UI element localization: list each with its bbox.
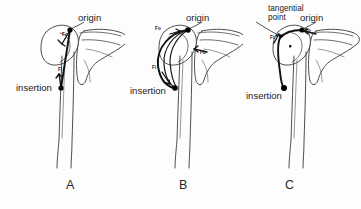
- panel-c-drawing: [232, 0, 361, 175]
- tangential-point-line1: tangential: [268, 4, 304, 13]
- insertion-label-b: insertion: [130, 86, 166, 96]
- obstacle-center-marker: [289, 45, 291, 47]
- force-origin-label-a: Fo: [62, 33, 68, 38]
- insertion-label-a: insertion: [16, 83, 52, 93]
- force-insertion-label-a: Fi: [58, 68, 62, 73]
- origin-label-a: origin: [78, 13, 101, 23]
- panel-letter-b: B: [179, 179, 187, 192]
- insertion-node-b: [172, 85, 178, 91]
- tangential-point-label-c: tangential point: [268, 4, 304, 22]
- insertion-label-c: insertion: [246, 91, 282, 101]
- panel-letter-c: C: [285, 179, 294, 192]
- force-origin-label-b: Fo: [155, 27, 161, 32]
- figure-canvas: origin insertion Fo Fi A orig: [0, 0, 361, 209]
- force-tangential-label-c: Ft: [270, 36, 275, 41]
- force-bending-label-b: Fb: [200, 51, 206, 56]
- force-origin-label-c: Fo: [305, 29, 311, 34]
- origin-label-b: origin: [186, 13, 209, 23]
- tangential-point-line2: point: [268, 13, 286, 22]
- origin-label-c: origin: [300, 13, 323, 23]
- panel-letter-a: A: [66, 179, 74, 192]
- force-insertion-label-b: Fi: [152, 66, 156, 71]
